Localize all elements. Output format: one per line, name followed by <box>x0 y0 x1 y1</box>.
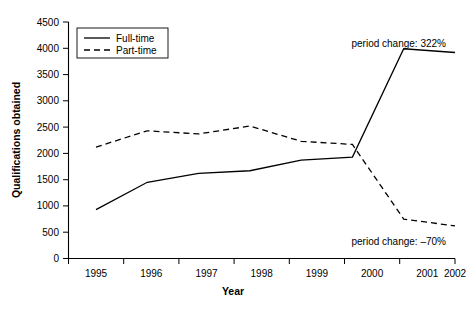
x-axis-tick-labels: 1995 1996 1997 1998 1999 2000 2001 2002 <box>85 268 467 279</box>
x-tick-label: 1995 <box>85 268 108 279</box>
legend-label-part-time: Part-time <box>116 45 157 56</box>
y-tick-label: 1000 <box>37 200 60 211</box>
y-tick-label: 3000 <box>37 95 60 106</box>
y-tick-label: 0 <box>53 253 59 264</box>
x-tick-label: 1999 <box>306 268 329 279</box>
y-axis-title: Qualifications obtained <box>10 82 22 198</box>
line-chart: 0 500 1000 1500 2000 2500 3000 3500 4000… <box>0 0 467 309</box>
y-tick-label: 4000 <box>37 43 60 54</box>
x-tick-label: 2001 <box>416 268 439 279</box>
y-tick-label: 2000 <box>37 148 60 159</box>
x-tick-label: 1997 <box>195 268 218 279</box>
y-tick-label: 1500 <box>37 174 60 185</box>
y-tick-marks <box>63 22 69 259</box>
y-axis-tick-labels: 0 500 1000 1500 2000 2500 3000 3500 4000… <box>37 17 60 265</box>
x-axis-title: Year <box>222 285 244 297</box>
y-tick-label: 3500 <box>37 69 60 80</box>
chart-canvas: 0 500 1000 1500 2000 2500 3000 3500 4000… <box>0 0 467 309</box>
annotation-part-time-period-change: period change: –70% <box>351 236 446 247</box>
x-tick-marks <box>69 259 456 265</box>
x-tick-label: 2002 <box>444 268 467 279</box>
y-tick-label: 2500 <box>37 122 60 133</box>
x-tick-label: 1998 <box>251 268 274 279</box>
y-tick-label: 4500 <box>37 17 60 28</box>
annotation-full-time-period-change: period change: 322% <box>351 38 446 49</box>
y-tick-label: 500 <box>42 227 59 238</box>
x-tick-label: 2000 <box>361 268 384 279</box>
legend-label-full-time: Full-time <box>116 33 155 44</box>
x-tick-label: 1996 <box>140 268 163 279</box>
series-line-part-time <box>96 126 455 226</box>
chart-legend: Full-time Part-time <box>77 28 168 58</box>
series-line-full-time <box>96 49 455 210</box>
